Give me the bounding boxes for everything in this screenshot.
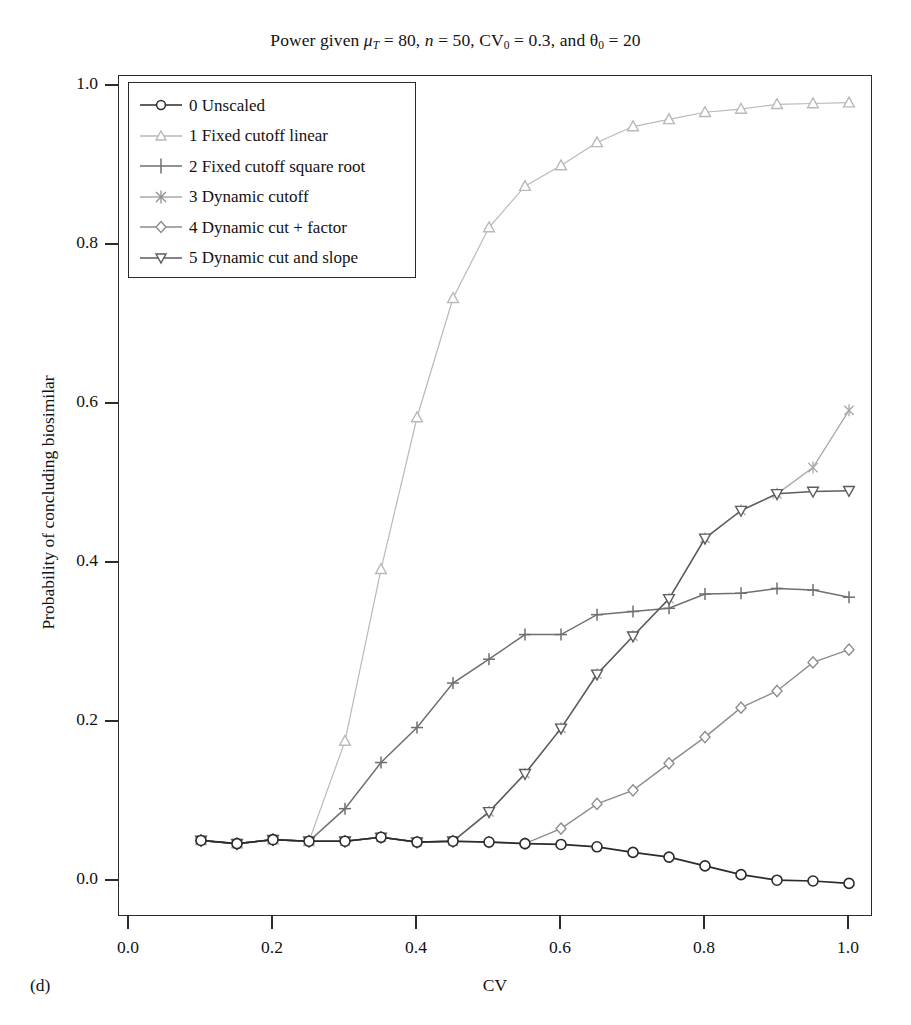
legend-marker-asterisk [138,186,184,208]
y-tick-mark [105,84,118,85]
y-tick-mark [105,879,118,880]
series-2-fixed-cutoff-square-root [195,582,855,849]
x-tick-label: 0.4 [381,937,451,958]
title-cv-value: = 0.3, and [510,30,590,50]
y-tick-mark [105,402,118,403]
y-tick-label: 0.0 [36,868,98,889]
chart-legend: 0 Unscaled 1 Fixed cutoff linear 2 Fixed… [128,82,416,278]
legend-item[interactable]: 5 Dynamic cut and slope [129,243,415,274]
x-tick-label: 0.8 [669,937,739,958]
x-axis-label: CV [118,975,872,996]
legend-item[interactable]: 1 Fixed cutoff linear [129,121,415,152]
x-tick-mark [271,916,272,929]
series-5-dynamic-cut-and-slope [196,486,855,849]
legend-label: 2 Fixed cutoff square root [184,158,365,175]
y-tick-mark [105,561,118,562]
y-tick-mark [105,720,118,721]
y-tick-label: 0.8 [36,232,98,253]
series-3-dynamic-cutoff [196,404,853,849]
x-tick-label: 1.0 [813,937,883,958]
legend-marker-triangle-up [138,125,184,147]
x-tick-label: 0.0 [93,937,163,958]
legend-label: 0 Unscaled [184,97,265,114]
title-mu: μ [364,30,373,50]
y-tick-mark [105,243,118,244]
title-theta-value: = 20 [604,30,641,50]
figure-root: Power given μT = 80, n = 50, CV0 = 0.3, … [0,0,911,1025]
y-tick-label: 0.2 [36,709,98,730]
y-tick-label: 1.0 [36,73,98,94]
series-0-unscaled [196,832,854,888]
legend-item[interactable]: 3 Dynamic cutoff [129,182,415,213]
x-tick-mark [127,916,128,929]
title-mu-value: = 80, [379,30,425,50]
legend-item[interactable]: 0 Unscaled [129,90,415,121]
legend-item[interactable]: 4 Dynamic cut + factor [129,212,415,243]
title-n: n [425,30,434,50]
title-n-value: = 50, CV [434,30,504,50]
x-tick-mark [847,916,848,929]
y-tick-label: 0.4 [36,550,98,571]
x-tick-label: 0.6 [525,937,595,958]
y-axis-label: Probability of concluding biosimilar [38,223,59,783]
chart-title: Power given μT = 80, n = 50, CV0 = 0.3, … [0,30,911,51]
title-theta: θ [590,30,598,50]
x-tick-mark [415,916,416,929]
legend-label: 5 Dynamic cut and slope [184,249,358,266]
legend-label: 4 Dynamic cut + factor [184,219,347,236]
legend-label: 3 Dynamic cutoff [184,188,309,205]
legend-label: 1 Fixed cutoff linear [184,127,328,144]
legend-marker-circle [138,94,184,116]
title-prefix: Power given [270,30,364,50]
x-tick-label: 0.2 [237,937,307,958]
legend-marker-triangle-down [138,247,184,269]
y-tick-label: 0.6 [36,391,98,412]
panel-tag: (d) [30,975,50,996]
legend-marker-diamond [138,216,184,238]
legend-item[interactable]: 2 Fixed cutoff square root [129,151,415,182]
legend-marker-plus [138,155,184,177]
x-tick-mark [703,916,704,929]
x-tick-mark [559,916,560,929]
series-4-dynamic-cut-factor [196,644,854,849]
